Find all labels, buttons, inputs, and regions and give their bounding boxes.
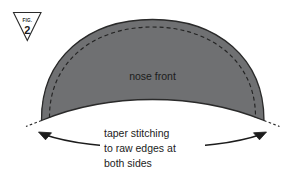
caption-line-2: to raw edges at [104,142,176,154]
figure-diagram: FIG. 2 nose front taper stitching to raw… [0,0,299,182]
caption-line-3: both sides [104,157,152,169]
taper-caption: taper stitching to raw edges at both sid… [100,126,205,172]
caption-line-1: taper stitching [104,127,170,139]
figure-badge: FIG. 2 [14,13,42,41]
figure-badge-word: FIG. [22,18,32,23]
figure-canvas: FIG. 2 nose front taper stitching to raw… [0,0,299,182]
seam-extension-left [26,121,42,127]
seam-extension-right [264,121,280,127]
nose-front-label: nose front [129,70,176,82]
figure-badge-number: 2 [24,24,30,36]
